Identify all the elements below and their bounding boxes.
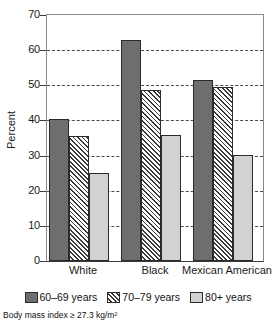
y-tick-label-60: 60 bbox=[12, 44, 40, 55]
y-tick-mark-20 bbox=[40, 191, 46, 192]
chart-legend: 60–69 years70–79 years80+ years bbox=[0, 288, 276, 306]
bar bbox=[89, 173, 109, 261]
legend-label: 80+ years bbox=[205, 292, 251, 303]
y-tick-mark-60 bbox=[40, 50, 46, 51]
y-tick-mark-30 bbox=[40, 156, 46, 157]
bar-groups bbox=[47, 15, 263, 261]
bar bbox=[121, 40, 141, 261]
bar bbox=[213, 87, 233, 261]
bar bbox=[193, 80, 213, 261]
y-tick-mark-70 bbox=[40, 15, 46, 16]
legend-item: 70–79 years bbox=[107, 292, 180, 303]
bar bbox=[233, 155, 253, 261]
bar-group bbox=[191, 15, 263, 261]
bar-group bbox=[119, 15, 191, 261]
bar bbox=[49, 119, 69, 261]
legend-item: 80+ years bbox=[190, 292, 251, 303]
y-tick-mark-50 bbox=[40, 85, 46, 86]
legend-swatch-icon bbox=[190, 292, 203, 303]
y-tick-label-10: 10 bbox=[12, 220, 40, 231]
legend-label: 60–69 years bbox=[40, 292, 98, 303]
y-tick-mark-0 bbox=[40, 261, 46, 262]
y-tick-mark-40 bbox=[40, 120, 46, 121]
bar bbox=[161, 135, 181, 262]
legend-item: 60–69 years bbox=[25, 292, 98, 303]
legend-label: 70–79 years bbox=[122, 292, 180, 303]
x-tick-label: Mexican American bbox=[167, 264, 276, 277]
chart-figure: 010203040506070 Percent WhiteBlackMexica… bbox=[0, 0, 276, 324]
bar bbox=[69, 136, 89, 261]
legend-swatch-icon bbox=[107, 292, 120, 303]
bar bbox=[141, 90, 161, 261]
chart-footnote: Body mass index ≥ 27.3 kg/m² bbox=[3, 310, 117, 320]
y-tick-mark-10 bbox=[40, 226, 46, 227]
bar-group bbox=[47, 15, 119, 261]
y-tick-label-70: 70 bbox=[12, 9, 40, 20]
x-axis: WhiteBlackMexican American bbox=[0, 264, 276, 280]
legend-swatch-icon bbox=[25, 292, 38, 303]
y-tick-label-20: 20 bbox=[12, 185, 40, 196]
y-axis-title: Percent bbox=[5, 88, 17, 172]
